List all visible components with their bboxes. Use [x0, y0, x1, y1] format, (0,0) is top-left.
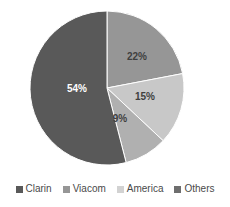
chart-legend: ClarinViacomAmericaOthers — [0, 178, 230, 200]
pie-svg — [0, 0, 230, 172]
legend-swatch-icon — [63, 186, 70, 193]
legend-swatch-icon — [16, 186, 23, 193]
legend-item-label: America — [127, 184, 164, 194]
pie-data-label-america: 15% — [135, 92, 155, 102]
legend-item-america[interactable]: America — [117, 184, 164, 194]
pie-plot-area: 22%15%9%54% — [0, 0, 230, 172]
legend-swatch-icon — [174, 186, 181, 193]
legend-item-clarin[interactable]: Clarin — [16, 184, 52, 194]
legend-swatch-icon — [117, 186, 124, 193]
legend-item-label: Viacom — [73, 184, 106, 194]
legend-item-label: Others — [184, 184, 214, 194]
pie-chart-figure: 22%15%9%54% ClarinViacomAmericaOthers — [0, 0, 230, 207]
pie-data-label-clarin: 54% — [67, 84, 87, 94]
legend-item-others[interactable]: Others — [174, 184, 214, 194]
pie-slice-group — [30, 11, 184, 165]
pie-data-label-others: 9% — [113, 114, 127, 124]
legend-item-viacom[interactable]: Viacom — [63, 184, 106, 194]
legend-item-label: Clarin — [26, 184, 52, 194]
pie-data-label-viacom: 22% — [127, 52, 147, 62]
